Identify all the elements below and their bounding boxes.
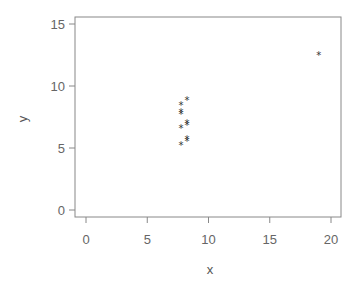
x-tick-label: 0 xyxy=(82,232,89,247)
plot-frame xyxy=(75,17,341,217)
data-point-marker: * xyxy=(185,120,190,131)
scatter-plot: 05101505101520xy*********** xyxy=(0,0,358,290)
x-tick-label: 20 xyxy=(324,232,338,247)
x-axis-label: x xyxy=(207,262,214,277)
data-point-marker: * xyxy=(179,123,184,134)
y-tick-label: 10 xyxy=(51,79,65,94)
x-tick-label: 10 xyxy=(201,232,215,247)
data-point-marker: * xyxy=(179,140,184,151)
data-point-marker: * xyxy=(185,136,190,147)
data-point-marker: * xyxy=(185,95,190,106)
x-tick-label: 5 xyxy=(144,232,151,247)
y-tick-label: 5 xyxy=(58,141,65,156)
y-axis-label: y xyxy=(15,115,30,122)
data-point-marker: * xyxy=(179,107,184,118)
x-tick-label: 15 xyxy=(263,232,277,247)
data-point-marker: * xyxy=(316,50,321,61)
y-tick-label: 0 xyxy=(58,203,65,218)
y-tick-label: 15 xyxy=(51,17,65,32)
